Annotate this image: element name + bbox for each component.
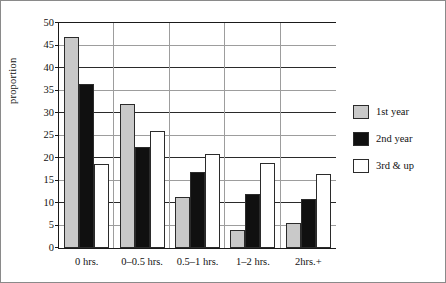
x-axis-tick-label: 0.5–1 hrs. bbox=[177, 257, 219, 268]
legend-item: 3rd & up bbox=[353, 159, 414, 173]
y-axis-tick-label: 15 bbox=[44, 175, 55, 186]
bar bbox=[79, 84, 94, 248]
legend-label: 3rd & up bbox=[376, 161, 414, 172]
bar bbox=[230, 230, 245, 248]
y-axis-tick-label: 35 bbox=[44, 85, 55, 96]
bar bbox=[64, 37, 79, 248]
y-axis-tick-label: 30 bbox=[44, 108, 55, 119]
chart-legend: 1st year2nd year3rd & up bbox=[353, 105, 414, 173]
bar bbox=[205, 154, 220, 248]
bar bbox=[286, 223, 301, 248]
bar bbox=[301, 199, 316, 248]
legend-swatch bbox=[353, 132, 369, 146]
y-axis-tick-label: 20 bbox=[44, 153, 55, 164]
bar bbox=[260, 163, 275, 249]
x-axis-tick-label: 1–2 hrs. bbox=[236, 257, 270, 268]
legend-item: 1st year bbox=[353, 105, 414, 119]
bar-group: 1–2 hrs. bbox=[225, 23, 280, 248]
legend-label: 2nd year bbox=[376, 134, 412, 145]
y-axis-title: proportion bbox=[7, 58, 18, 104]
x-axis-tick-label: 0–0.5 hrs. bbox=[121, 257, 163, 268]
bar-group: 0–0.5 hrs. bbox=[114, 23, 169, 248]
x-axis-tick-label: 0 hrs. bbox=[75, 257, 98, 268]
bar-group: 0.5–1 hrs. bbox=[170, 23, 225, 248]
bar bbox=[150, 131, 165, 248]
y-axis-tick-label: 10 bbox=[44, 198, 55, 209]
y-axis-tick-label: 50 bbox=[44, 18, 55, 29]
bar-groups: 0 hrs.0–0.5 hrs.0.5–1 hrs.1–2 hrs.2hrs.+ bbox=[59, 23, 336, 248]
y-axis-tick-label: 45 bbox=[44, 40, 55, 51]
legend-swatch bbox=[353, 159, 369, 173]
legend-item: 2nd year bbox=[353, 132, 414, 146]
x-axis-tick-label: 2hrs.+ bbox=[295, 257, 322, 268]
chart-figure: proportion 05101520253035404550 0 hrs.0–… bbox=[0, 0, 446, 283]
y-axis-tick-label: 0 bbox=[49, 243, 54, 254]
bar bbox=[94, 164, 109, 248]
plot-area: 05101520253035404550 0 hrs.0–0.5 hrs.0.5… bbox=[58, 23, 336, 249]
legend-swatch bbox=[353, 105, 369, 119]
bar bbox=[135, 147, 150, 248]
bar bbox=[190, 172, 205, 249]
bar bbox=[175, 197, 190, 248]
bar-group: 2hrs.+ bbox=[281, 23, 336, 248]
bar-group: 0 hrs. bbox=[59, 23, 114, 248]
bar bbox=[120, 104, 135, 248]
y-axis-tick-label: 40 bbox=[44, 63, 55, 74]
bar bbox=[316, 174, 331, 248]
y-axis-tick-label: 5 bbox=[49, 220, 54, 231]
bar bbox=[245, 194, 260, 248]
y-axis-tick-label: 25 bbox=[44, 130, 55, 141]
legend-label: 1st year bbox=[376, 107, 409, 118]
